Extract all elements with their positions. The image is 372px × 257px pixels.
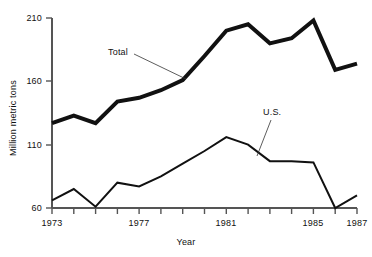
x-tick-label-1977: 1977 xyxy=(121,218,157,228)
leader-line-total xyxy=(134,54,186,79)
y-axis-title: Million metric tons xyxy=(8,58,18,178)
x-tick-label-1973: 1973 xyxy=(34,218,70,228)
leader-line-us xyxy=(257,120,271,156)
y-tick-label-60: 60 xyxy=(8,203,42,213)
series-line-total xyxy=(52,21,357,124)
series-label-total: Total xyxy=(108,47,128,57)
x-axis-title: Year xyxy=(0,237,372,247)
x-tick-label-1987: 1987 xyxy=(339,218,372,228)
x-tick-label-1981: 1981 xyxy=(208,218,244,228)
series-line-us xyxy=(52,137,357,208)
y-tick-label-210: 210 xyxy=(8,13,42,23)
x-tick-label-1985: 1985 xyxy=(295,218,331,228)
series-label-us: U.S. xyxy=(263,107,281,117)
chart-container: 210 160 110 60 1973 1977 1981 1985 1987 … xyxy=(0,0,372,257)
